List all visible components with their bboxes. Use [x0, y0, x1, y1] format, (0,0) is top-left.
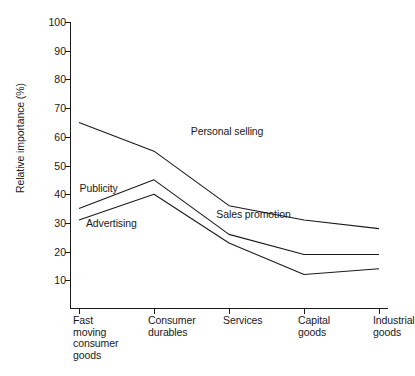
y-tick-label: 90 [40, 45, 66, 56]
y-tick-mark [65, 166, 70, 167]
y-axis-title: Relative importance (%) [14, 18, 26, 258]
y-tick-mark [65, 252, 70, 253]
y-tick-mark [65, 194, 70, 195]
y-tick-mark [65, 223, 70, 224]
y-tick-mark [65, 51, 70, 52]
plot-area [70, 22, 388, 309]
y-tick-mark [65, 280, 70, 281]
x-tick-label: Industrial goods [373, 315, 415, 338]
series-label-sales-promotion: Sales promotion [216, 208, 290, 220]
y-tick-label: 10 [40, 275, 66, 286]
y-tick-label: 80 [40, 74, 66, 85]
y-tick-mark [65, 137, 70, 138]
y-tick-label: 40 [40, 189, 66, 200]
y-axis-tick-labels: 102030405060708090100 [36, 0, 66, 376]
y-tick-mark [65, 22, 70, 23]
y-tick-label: 60 [40, 132, 66, 143]
y-tick-mark [65, 108, 70, 109]
y-tick-label: 100 [40, 17, 66, 28]
series-label-advertising: Advertising [86, 217, 137, 229]
series-label-personal-selling: Personal selling [191, 125, 264, 137]
x-tick-label: Services [223, 315, 262, 327]
y-tick-label: 70 [40, 103, 66, 114]
x-tick-label: Fast moving consumer goods [73, 315, 118, 361]
y-tick-label: 50 [40, 160, 66, 171]
series-label-publicity: Publicity [80, 182, 118, 194]
y-tick-label: 30 [40, 218, 66, 229]
x-tick-label: Capital goods [298, 315, 330, 338]
x-tick-label: Consumer durables [148, 315, 196, 338]
y-tick-label: 20 [40, 246, 66, 257]
series-lines [70, 22, 388, 309]
y-tick-mark [65, 79, 70, 80]
